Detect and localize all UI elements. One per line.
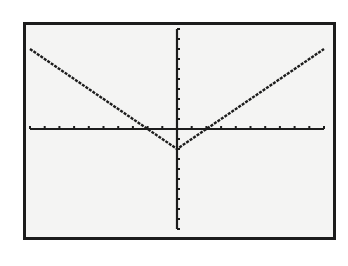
graph-plot bbox=[0, 0, 348, 266]
axes bbox=[30, 29, 324, 229]
